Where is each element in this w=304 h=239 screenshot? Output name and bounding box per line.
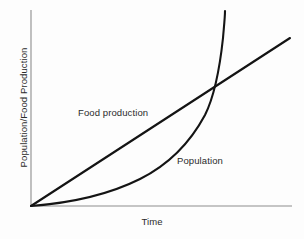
food-production-series-label: Food production (78, 107, 148, 118)
population-series-label: Population (177, 155, 223, 166)
x-axis-label: Time (0, 216, 304, 227)
y-axis-label: Population/Food Production (18, 33, 29, 183)
malthusian-growth-chart: Population/Food Production Time Food pro… (0, 0, 304, 239)
food-production-series-line (31, 38, 290, 206)
chart-plot-area (0, 0, 304, 239)
